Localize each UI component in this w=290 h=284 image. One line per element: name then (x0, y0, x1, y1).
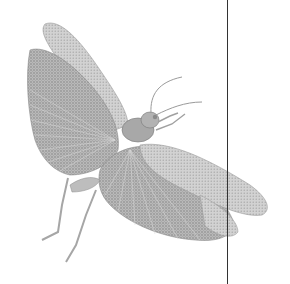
vertical-rule-line (227, 0, 228, 284)
grasshopper-illustration (0, 0, 290, 284)
left-hindwing (28, 49, 119, 175)
front-leg-1 (158, 113, 178, 122)
antenna-right (156, 102, 202, 115)
hind-leg-right (66, 190, 96, 262)
hind-leg-left (42, 178, 68, 240)
illustration-canvas (0, 0, 290, 284)
eye (153, 115, 157, 119)
antenna-left (151, 77, 182, 113)
